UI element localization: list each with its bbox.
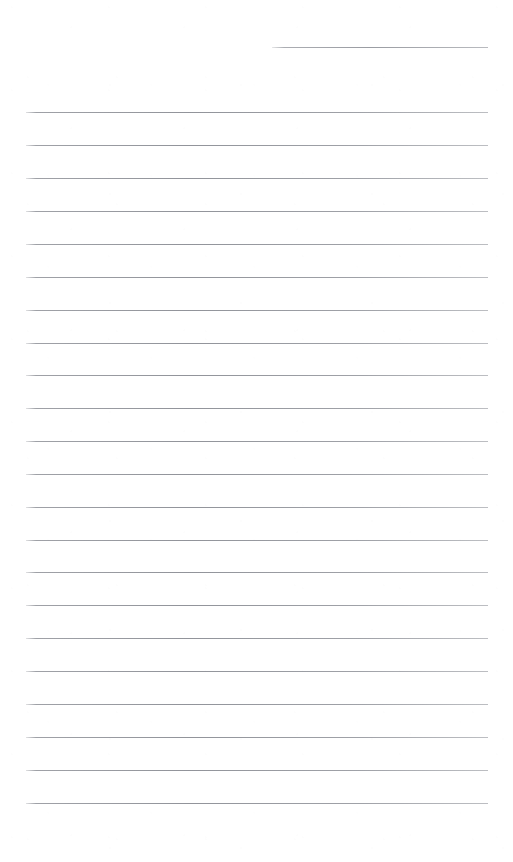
ruled-line [26,343,488,344]
ruled-line [26,671,488,672]
ruled-line [26,441,488,442]
ruled-line [26,277,488,278]
notepaper-page [0,0,513,862]
ruled-line [26,770,488,771]
ruled-line [26,145,488,146]
ruled-line [26,474,488,475]
ruled-line [26,244,488,245]
ruled-line [272,47,488,48]
ruled-line [26,408,488,409]
ruled-line [26,178,488,179]
ruled-line [26,540,488,541]
ruled-line [26,638,488,639]
ruled-line [26,310,488,311]
ruled-line [26,112,488,113]
paper-texture [0,0,513,862]
ruled-line [26,507,488,508]
ruled-line [26,211,488,212]
ruled-line [26,572,488,573]
ruled-line [26,737,488,738]
ruled-line [26,704,488,705]
ruled-line [26,605,488,606]
ruled-line [26,803,488,804]
ruled-line [26,375,488,376]
